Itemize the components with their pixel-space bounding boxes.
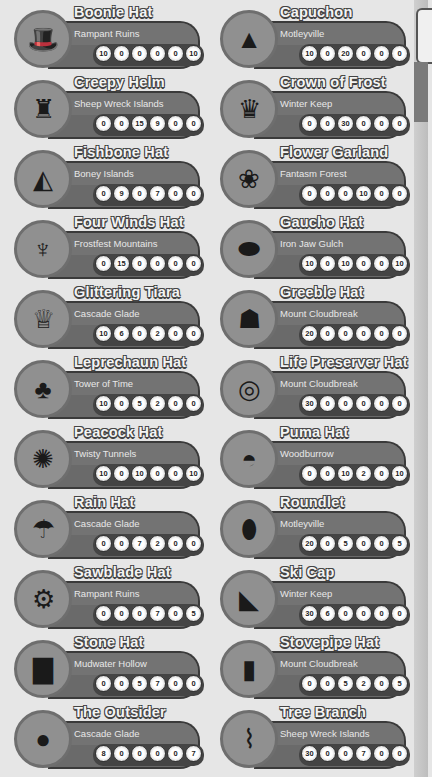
hat-card-tree-branch[interactable]: ⌇ Tree Branch Sheep Wreck Islands 300070… (206, 704, 406, 770)
hat-card-creepy-helm[interactable]: ♜ Creepy Helm Sheep Wreck Islands 001590… (0, 74, 200, 140)
stat-badge: 10 (337, 465, 354, 482)
hat-stats: 0150000 (93, 254, 204, 276)
stat-badge: 0 (301, 185, 318, 202)
stat-badge: 7 (149, 185, 166, 202)
hat-card-boonie-hat[interactable]: 🎩 Boonie Hat Rampant Ruins 10000010 (0, 4, 200, 70)
hat-name: Creepy Helm (74, 74, 165, 90)
stat-badge: 30 (301, 605, 318, 622)
hat-card-the-outsider[interactable]: ● The Outsider Cascade Glade 800007 (0, 704, 200, 770)
stat-badge: 0 (337, 605, 354, 622)
stat-badge: 0 (95, 255, 112, 272)
stat-badge: 0 (167, 45, 184, 62)
stat-badge: 0 (373, 605, 390, 622)
hat-card-roundlet[interactable]: ⬮ Roundlet Motleyville 2005005 (206, 494, 406, 560)
hat-stats: 000705 (93, 604, 204, 626)
hat-avatar: ♛ (220, 80, 278, 138)
hat-card-capuchon[interactable]: ▲ Capuchon Motleyville 10020000 (206, 4, 406, 70)
hat-card-gaucho-hat[interactable]: ⬬ Gaucho Hat Iron Jaw Gulch 100100010 (206, 214, 406, 280)
stat-badge: 5 (337, 535, 354, 552)
hat-card-crown-of-frost[interactable]: ♛ Crown of Frost Winter Keep 0030000 (206, 74, 406, 140)
stat-badge: 0 (319, 535, 336, 552)
hat-card-stovepipe-hat[interactable]: ▮ Stovepipe Hat Mount Cloudbreak 005205 (206, 634, 406, 700)
hat-name: Flower Garland (280, 144, 388, 160)
hat-stats: 0030000 (299, 114, 410, 136)
stat-badge: 0 (391, 325, 408, 342)
stat-badge: 0 (167, 325, 184, 342)
hat-location: Fantasm Forest (280, 168, 347, 179)
hat-avatar: ⚙ (14, 570, 72, 628)
hat-name: Ski Cap (280, 564, 335, 580)
life-preserver-hat-icon: ◎ (238, 376, 261, 402)
stat-badge: 0 (113, 465, 130, 482)
hat-card-sawblade-hat[interactable]: ⚙ Sawblade Hat Rampant Ruins 000705 (0, 564, 200, 630)
stat-badge: 10 (301, 255, 318, 272)
stat-badge: 0 (391, 745, 408, 762)
stat-badge: 7 (131, 535, 148, 552)
hat-stats: 3000000 (299, 394, 410, 416)
stat-badge: 30 (337, 115, 354, 132)
stat-badge: 0 (301, 675, 318, 692)
stat-badge: 0 (149, 745, 166, 762)
stat-badge: 0 (149, 465, 166, 482)
hat-card-peacock-hat[interactable]: ✺ Peacock Hat Twisty Tunnels 100100010 (0, 424, 200, 490)
stat-badge: 6 (319, 605, 336, 622)
flower-garland-icon: ❀ (238, 166, 260, 192)
side-panel-image (414, 62, 428, 122)
hat-stats: 1060200 (93, 324, 204, 346)
stat-badge: 9 (149, 115, 166, 132)
stat-badge: 0 (355, 45, 372, 62)
hat-location: Mount Cloudbreak (280, 658, 358, 669)
stat-badge: 0 (391, 45, 408, 62)
hat-avatar: ◓ (220, 430, 278, 488)
hat-card-flower-garland[interactable]: ❀ Flower Garland Fantasm Forest 0001000 (206, 144, 406, 210)
hat-card-puma-hat[interactable]: ◓ Puma Hat Woodburrow 00102010 (206, 424, 406, 490)
stat-badge: 0 (319, 255, 336, 272)
stat-badge: 0 (95, 605, 112, 622)
stat-badge: 0 (319, 185, 336, 202)
hat-card-life-preserver-hat[interactable]: ◎ Life Preserver Hat Mount Cloudbreak 30… (206, 354, 406, 420)
stat-badge: 0 (337, 395, 354, 412)
hat-card-fishbone-hat[interactable]: ◭ Fishbone Hat Boney Islands 090700 (0, 144, 200, 210)
stat-badge: 0 (113, 115, 130, 132)
stat-badge: 0 (319, 115, 336, 132)
stat-badge: 5 (185, 605, 202, 622)
stat-badge: 0 (113, 605, 130, 622)
hat-card-ski-cap[interactable]: ◣ Ski Cap Winter Keep 3060000 (206, 564, 406, 630)
stat-badge: 7 (149, 605, 166, 622)
hat-location: Winter Keep (280, 588, 332, 599)
stat-badge: 0 (167, 255, 184, 272)
hat-avatar: ◎ (220, 360, 278, 418)
stat-badge: 0 (319, 465, 336, 482)
stat-badge: 0 (355, 115, 372, 132)
hat-avatar: ♕ (14, 290, 72, 348)
hat-location: Frostfest Mountains (74, 238, 157, 249)
hat-stats: 1005200 (93, 394, 204, 416)
stat-badge: 0 (131, 745, 148, 762)
stat-badge: 10 (301, 45, 318, 62)
hat-stats: 007200 (93, 534, 204, 556)
hat-card-leprechaun-hat[interactable]: ♣ Leprechaun Hat Tower of Time 1005200 (0, 354, 200, 420)
stat-badge: 0 (337, 325, 354, 342)
hat-card-glittering-tiara[interactable]: ♕ Glittering Tiara Cascade Glade 1060200 (0, 284, 200, 350)
four-winds-hat-icon: ♆ (33, 236, 53, 262)
stat-badge: 0 (373, 325, 390, 342)
hat-card-stone-hat[interactable]: ▇ Stone Hat Mudwater Hollow 005700 (0, 634, 200, 700)
hat-card-rain-hat[interactable]: ☂ Rain Hat Cascade Glade 007200 (0, 494, 200, 560)
hat-stats: 0015900 (93, 114, 204, 136)
stat-badge: 0 (391, 185, 408, 202)
hat-card-greeble-hat[interactable]: ☗ Greeble Hat Mount Cloudbreak 2000000 (206, 284, 406, 350)
hat-name: The Outsider (74, 704, 166, 720)
stat-badge: 0 (391, 605, 408, 622)
hat-location: Woodburrow (280, 448, 334, 459)
stat-badge: 0 (355, 395, 372, 412)
hat-location: Mudwater Hollow (74, 658, 147, 669)
stat-badge: 0 (167, 745, 184, 762)
stat-badge: 2 (355, 675, 372, 692)
hat-card-four-winds-hat[interactable]: ♆ Four Winds Hat Frostfest Mountains 015… (0, 214, 200, 280)
hat-avatar: ♆ (14, 220, 72, 278)
stat-badge: 0 (319, 325, 336, 342)
stat-badge: 0 (113, 675, 130, 692)
stat-badge: 20 (337, 45, 354, 62)
stat-badge: 10 (185, 465, 202, 482)
hat-avatar: ● (14, 710, 72, 768)
